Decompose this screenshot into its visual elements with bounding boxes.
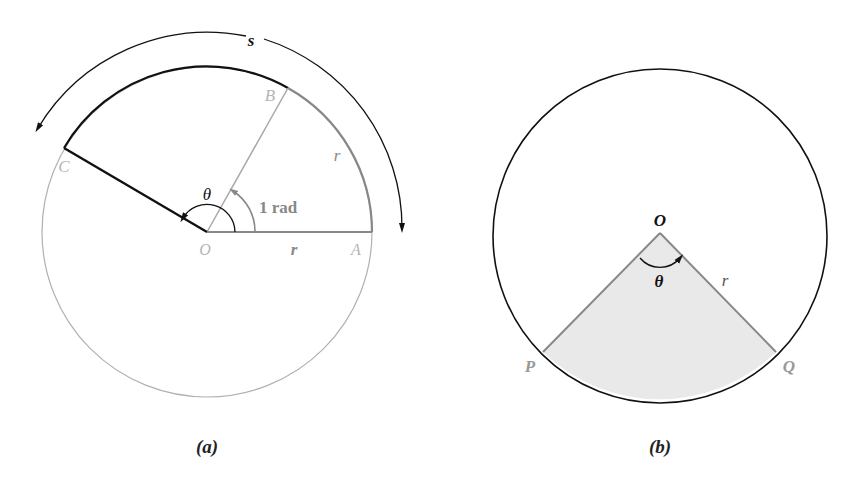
figure-b: O θ r P Q (b) [493, 69, 827, 458]
caption-b: (b) [649, 436, 671, 458]
label-s: s [247, 31, 255, 50]
figure-a: s B C r θ 1 rad O r A (a) [38, 31, 402, 458]
label-theta-b: θ [655, 272, 664, 291]
radius-oc [64, 148, 207, 232]
label-p: P [524, 357, 536, 376]
label-b: B [265, 86, 276, 105]
label-c: C [58, 157, 70, 176]
label-one-rad: 1 rad [259, 198, 298, 217]
label-r-b: r [722, 271, 729, 290]
label-o-a: O [199, 241, 211, 258]
arc-bc [64, 66, 288, 148]
label-a: A [350, 241, 361, 258]
label-o-b: O [654, 211, 666, 230]
diagram-canvas: s B C r θ 1 rad O r A (a) O θ r P Q (b) [0, 0, 863, 497]
label-r-base: r [291, 240, 298, 259]
caption-a: (a) [196, 436, 218, 458]
label-theta-a: θ [203, 185, 211, 204]
label-q: Q [783, 357, 795, 376]
arc-ab [288, 88, 372, 232]
label-r-arc: r [334, 146, 341, 165]
one-rad-arc [233, 191, 255, 232]
